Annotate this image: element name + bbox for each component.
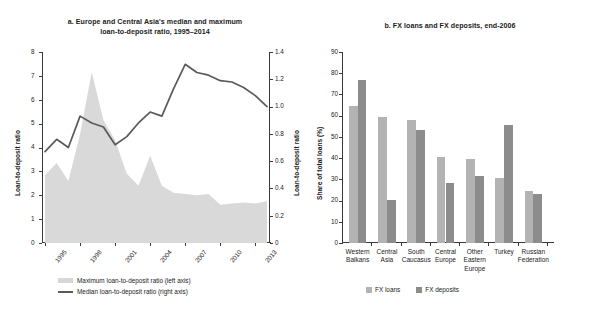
panel-a-y-right-tick-label: 0.6 xyxy=(275,158,284,164)
panel-a-y-left-tick-mark xyxy=(39,171,42,172)
panel-a-x-tick-mark xyxy=(115,243,116,246)
legend-fx-deposits-swatch-icon xyxy=(416,287,422,293)
bar-fx-loans[interactable] xyxy=(349,106,358,243)
bar-fx-loans[interactable] xyxy=(466,159,475,243)
panel-b-y-tick-label: 20 xyxy=(326,197,338,203)
bar-fx-deposits[interactable] xyxy=(533,194,542,243)
panel-a-y-right-tick-label: 0.2 xyxy=(275,213,284,219)
panel-b-x-tick-mark xyxy=(518,243,519,246)
legend-label-maximum-ratio: Maximum loan-to-deposit ratio (left axis… xyxy=(77,277,191,284)
panel-a-series-svg xyxy=(42,52,270,243)
panel-a-y-axis-right-title: Loan-to-deposit ratio xyxy=(293,130,300,196)
panel-a-x-tick-label: 2010 xyxy=(229,249,243,264)
panel-b-x-tick-mark xyxy=(488,243,489,246)
panel-a-y-left-tick-label: 0 xyxy=(31,240,35,246)
bar-fx-loans[interactable] xyxy=(437,157,446,243)
panel-a-y-left-tick-mark xyxy=(39,219,42,220)
panel-a-x-tick-mark xyxy=(255,243,256,246)
panel-b-x-tick-mark xyxy=(371,243,372,246)
panel-a-title-line-1: a. Europe and Central Asia's median and … xyxy=(40,18,270,28)
panel-a-y-left-tick-label: 6 xyxy=(31,97,35,103)
legend-item-maximum-ratio[interactable]: Maximum loan-to-deposit ratio (left axis… xyxy=(58,275,278,286)
panel-a-title: a. Europe and Central Asia's median and … xyxy=(40,18,270,37)
panel-b-y-tick-label: 90 xyxy=(326,49,338,55)
panel-b-x-tick-mark xyxy=(547,243,548,246)
panel-a-y-right-tick-label: 1.0 xyxy=(275,103,284,109)
panel-a-x-tick-label: 2004 xyxy=(159,249,173,264)
panel-a-y-right-tick-mark xyxy=(270,134,273,135)
panel-b-y-tick-label: 10 xyxy=(326,219,338,225)
panel-a-x-tick-mark xyxy=(150,243,151,246)
legend-fx-loans-swatch-icon xyxy=(366,287,372,293)
bar-fx-deposits[interactable] xyxy=(446,183,455,243)
figure-container: a. Europe and Central Asia's median and … xyxy=(0,0,597,309)
panel-b-y-tick-mark xyxy=(339,243,342,244)
panel-b-y-axis-title: Share of total loans (%) xyxy=(316,127,323,200)
panel-b-y-tick-label: 70 xyxy=(326,91,338,97)
legend-label-fx-deposits: FX deposits xyxy=(425,286,459,293)
panel-a-y-left-tick-mark xyxy=(39,124,42,125)
bar-fx-deposits[interactable] xyxy=(416,130,425,243)
panel-a-y-right-tick-mark xyxy=(270,188,273,189)
bar-fx-deposits[interactable] xyxy=(504,125,513,243)
panel-a-y-left-tick-mark xyxy=(39,148,42,149)
legend-item-fx-loans[interactable]: FX loans xyxy=(366,286,400,293)
panel-b-y-tick-mark xyxy=(339,137,342,138)
bar-fx-deposits[interactable] xyxy=(387,200,396,243)
legend-item-fx-deposits[interactable]: FX deposits xyxy=(416,286,459,293)
panel-b-y-tick-mark xyxy=(339,201,342,202)
panel-b-y-tick-mark xyxy=(339,179,342,180)
bar-fx-loans[interactable] xyxy=(407,120,416,243)
bar-fx-deposits[interactable] xyxy=(358,80,367,243)
panel-b-y-tick-mark xyxy=(339,116,342,117)
panel-a-y-right-tick-mark xyxy=(270,52,273,53)
panel-b-legend: FX loans FX deposits xyxy=(366,286,459,293)
panel-a-x-tick-label: 1998 xyxy=(89,249,103,264)
legend-item-median-ratio[interactable]: Median loan-to-deposit ratio (right axis… xyxy=(58,286,278,297)
panel-a-y-left-tick-label: 5 xyxy=(31,120,35,126)
panel-a-x-tick-label: 2001 xyxy=(124,249,138,264)
panel-a-x-tick-label: 1995 xyxy=(54,249,68,264)
panel-a-y-left-tick-label: 7 xyxy=(31,73,35,79)
panel-a-y-right-tick-label: 1.2 xyxy=(275,76,284,82)
panel-a-y-right-tick-mark xyxy=(270,161,273,162)
panel-b-title: b. FX loans and FX deposits, end-2006 xyxy=(320,22,580,32)
panel-a-y-right-tick-mark xyxy=(270,243,273,244)
panel-b-y-tick-label: 50 xyxy=(326,134,338,140)
panel-a-y-left-tick-mark xyxy=(39,100,42,101)
panel-b-x-tick-mark xyxy=(401,243,402,246)
panel-a-y-left-tick-mark xyxy=(39,52,42,53)
panel-a-x-tick-label: 2007 xyxy=(194,249,208,264)
panel-a-plot-area xyxy=(42,52,270,243)
panel-b-y-tick-mark xyxy=(339,94,342,95)
panel-a-y-left-tick-label: 2 xyxy=(31,192,35,198)
panel-b-y-tick-mark xyxy=(339,73,342,74)
panel-a-y-right-tick-mark xyxy=(270,79,273,80)
panel-a-y-left-tick-mark xyxy=(39,195,42,196)
panel-a-y-right-tick-label: 0 xyxy=(275,240,279,246)
maximum-ratio-area xyxy=(45,72,267,243)
bar-fx-loans[interactable] xyxy=(525,191,534,243)
panel-a-x-tick-label: 2013 xyxy=(264,249,278,264)
legend-line-swatch-icon xyxy=(58,291,73,293)
panel-b-left-axis-line xyxy=(342,52,343,244)
panel-a-y-right-tick-label: 1.4 xyxy=(275,49,284,55)
panel-a-x-tick-mark xyxy=(45,243,46,246)
panel-b-y-tick-label: 60 xyxy=(326,112,338,118)
panel-a-y-left-tick-mark xyxy=(39,243,42,244)
panel-b-plot-area xyxy=(342,52,547,243)
panel-b-y-tick-label: 40 xyxy=(326,155,338,161)
panel-a-y-right-tick-label: 0.4 xyxy=(275,185,284,191)
panel-a-y-right-tick-label: 0.8 xyxy=(275,131,284,137)
bar-fx-deposits[interactable] xyxy=(475,176,484,243)
panel-a-x-tick-mark xyxy=(80,243,81,246)
panel-b-y-tick-label: 80 xyxy=(326,70,338,76)
panel-a-y-axis-left-title: Loan-to-deposit ratio xyxy=(14,130,21,196)
bar-fx-loans[interactable] xyxy=(378,117,387,243)
panel-b-x-tick-mark xyxy=(430,243,431,246)
panel-b-y-tick-mark xyxy=(339,52,342,53)
panel-a-x-tick-mark xyxy=(220,243,221,246)
bar-fx-loans[interactable] xyxy=(495,178,504,243)
panel-a-y-left-tick-label: 8 xyxy=(31,49,35,55)
panel-b-x-tick-mark xyxy=(459,243,460,246)
